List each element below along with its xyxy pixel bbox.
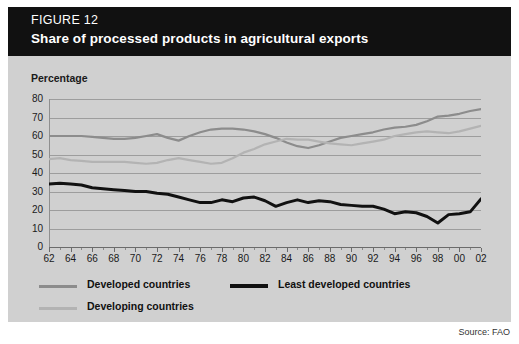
x-axis-tick-mark bbox=[427, 248, 428, 250]
x-axis-tick-label: 76 bbox=[189, 253, 211, 264]
x-axis-tick-mark bbox=[416, 248, 417, 252]
x-axis-tick-mark bbox=[297, 248, 298, 250]
y-axis-tick-label: 80 bbox=[21, 93, 43, 104]
x-axis-tick-mark bbox=[276, 248, 277, 250]
x-axis-tick-mark bbox=[168, 248, 169, 250]
x-axis-tick-mark bbox=[319, 248, 320, 250]
x-axis-tick-mark bbox=[125, 248, 126, 250]
x-axis-tick-mark bbox=[341, 248, 342, 250]
y-axis-tick-label: 50 bbox=[21, 149, 43, 160]
x-axis-tick-label: 86 bbox=[297, 253, 319, 264]
x-axis-tick-mark bbox=[405, 248, 406, 250]
x-axis-tick-mark bbox=[384, 248, 385, 250]
y-axis-tick-label: 0 bbox=[21, 241, 43, 252]
y-axis-tick-label: 20 bbox=[21, 204, 43, 215]
x-axis-tick-mark bbox=[362, 248, 363, 250]
x-axis-tick-mark bbox=[351, 248, 352, 252]
x-axis-tick-label: 80 bbox=[232, 253, 254, 264]
x-axis-tick-label: 92 bbox=[362, 253, 384, 264]
x-axis-tick-mark bbox=[71, 248, 72, 252]
x-axis-tick-mark bbox=[449, 248, 450, 250]
x-axis-tick-mark bbox=[265, 248, 266, 252]
source-note: Source: FAO bbox=[458, 327, 510, 337]
x-axis-tick-mark bbox=[81, 248, 82, 250]
x-axis-tick-mark bbox=[470, 248, 471, 250]
legend-swatch bbox=[39, 307, 77, 310]
x-axis-tick-label: 02 bbox=[470, 253, 492, 264]
x-axis-tick-mark bbox=[157, 248, 158, 252]
x-axis-tick-mark bbox=[254, 248, 255, 250]
x-axis-tick-mark bbox=[135, 248, 136, 252]
x-axis-tick-mark bbox=[60, 248, 61, 250]
x-axis-tick-label: 74 bbox=[168, 253, 190, 264]
x-axis-tick-mark bbox=[438, 248, 439, 252]
x-axis-tick-mark bbox=[146, 248, 147, 250]
legend-swatch bbox=[39, 285, 77, 288]
y-axis-label: Percentage bbox=[31, 72, 88, 84]
x-axis-tick-mark bbox=[308, 248, 309, 252]
x-axis-tick-label: 98 bbox=[427, 253, 449, 264]
x-axis-tick-mark bbox=[114, 248, 115, 252]
legend-label: Developing countries bbox=[87, 300, 194, 312]
x-axis-tick-mark bbox=[179, 248, 180, 252]
y-axis-tick-label: 30 bbox=[21, 186, 43, 197]
y-axis-tick-label: 60 bbox=[21, 130, 43, 141]
x-axis-tick-mark bbox=[49, 248, 50, 252]
x-axis-tick-mark bbox=[243, 248, 244, 252]
x-axis-tick-label: 78 bbox=[211, 253, 233, 264]
figure-container: FIGURE 12 Share of processed products in… bbox=[0, 0, 519, 344]
x-axis-tick-mark bbox=[330, 248, 331, 252]
legend-swatch bbox=[230, 284, 268, 288]
x-axis-tick-mark bbox=[103, 248, 104, 250]
x-axis-tick-mark bbox=[92, 248, 93, 252]
x-axis-tick-label: 88 bbox=[319, 253, 341, 264]
y-axis-tick-label: 70 bbox=[21, 112, 43, 123]
legend-label: Least developed countries bbox=[278, 278, 410, 290]
x-axis-tick-mark bbox=[233, 248, 234, 250]
x-axis-tick-mark bbox=[189, 248, 190, 250]
x-axis-tick-label: 70 bbox=[124, 253, 146, 264]
series-line bbox=[49, 109, 481, 148]
x-axis-tick-label: 00 bbox=[448, 253, 470, 264]
x-axis-tick-mark bbox=[287, 248, 288, 252]
series-lines bbox=[49, 99, 481, 247]
x-axis-tick-mark bbox=[211, 248, 212, 250]
x-axis-tick-label: 72 bbox=[146, 253, 168, 264]
x-axis-tick-mark bbox=[200, 248, 201, 252]
series-line bbox=[49, 183, 481, 223]
x-axis-tick-mark bbox=[395, 248, 396, 252]
series-line bbox=[49, 126, 481, 164]
x-axis-tick-label: 84 bbox=[276, 253, 298, 264]
chart-legend: Developed countriesDeveloping countriesL… bbox=[8, 278, 511, 322]
x-axis-tick-mark bbox=[459, 248, 460, 252]
x-axis-tick-label: 68 bbox=[103, 253, 125, 264]
figure-title: Share of processed products in agricultu… bbox=[31, 31, 368, 46]
x-axis-tick-label: 96 bbox=[405, 253, 427, 264]
x-axis-tick-mark bbox=[481, 248, 482, 252]
x-axis-tick-label: 90 bbox=[340, 253, 362, 264]
x-axis-tick-label: 64 bbox=[60, 253, 82, 264]
x-axis-tick-label: 66 bbox=[81, 253, 103, 264]
x-axis-tick-label: 94 bbox=[384, 253, 406, 264]
x-axis-tick-mark bbox=[222, 248, 223, 252]
y-axis-tick-label: 10 bbox=[21, 223, 43, 234]
figure-number: FIGURE 12 bbox=[31, 13, 98, 27]
x-axis-tick-mark bbox=[373, 248, 374, 252]
x-axis-tick-label: 62 bbox=[38, 253, 60, 264]
y-axis-tick-label: 40 bbox=[21, 167, 43, 178]
legend-label: Developed countries bbox=[87, 278, 190, 290]
x-axis-tick-label: 82 bbox=[254, 253, 276, 264]
